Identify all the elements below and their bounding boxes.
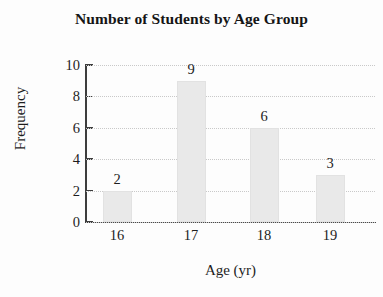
bar xyxy=(316,175,345,222)
bar-value-label: 6 xyxy=(244,109,284,124)
y-axis-tick-label: 0 xyxy=(52,215,80,230)
x-axis-title: Age (yr) xyxy=(86,262,375,279)
gridline xyxy=(86,65,375,66)
y-axis-title: Frequency xyxy=(12,59,29,179)
bar-value-label: 9 xyxy=(171,62,211,77)
bar-value-label: 2 xyxy=(97,172,137,187)
bar-value-label: 3 xyxy=(310,156,350,171)
x-axis-tick-label: 18 xyxy=(244,228,284,243)
y-axis-tick-label: 2 xyxy=(52,184,80,199)
gridline xyxy=(86,222,375,223)
plot-area xyxy=(86,65,375,222)
y-axis-tick-label: 10 xyxy=(52,58,80,73)
bar xyxy=(177,81,206,222)
y-axis-tick-label: 4 xyxy=(52,152,80,167)
chart-figure: Number of Students by Age Group Frequenc… xyxy=(0,0,383,297)
gridline xyxy=(86,96,375,97)
x-axis-tick-label: 16 xyxy=(97,228,137,243)
y-axis-tick-label: 6 xyxy=(52,121,80,136)
x-axis-tick-label: 19 xyxy=(310,228,350,243)
bar xyxy=(103,191,132,222)
y-axis-tick-label: 8 xyxy=(52,89,80,104)
x-axis-tick-label: 17 xyxy=(171,228,211,243)
chart-title: Number of Students by Age Group xyxy=(0,10,383,28)
bar xyxy=(250,128,279,222)
gridline xyxy=(86,128,375,129)
